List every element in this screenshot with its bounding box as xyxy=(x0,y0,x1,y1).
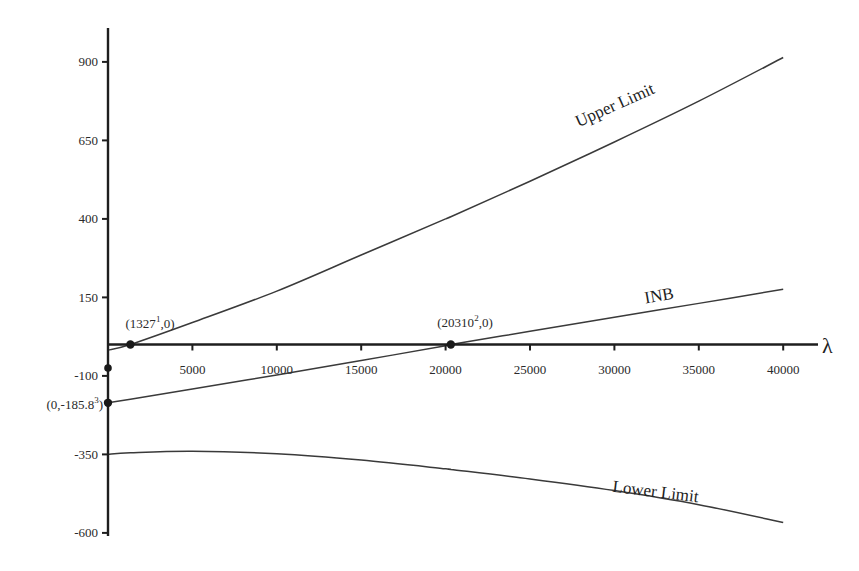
curve-labels: Upper Limit INB Lower Limit xyxy=(572,79,700,506)
x-axis-ticks: 500010000150002000025000300003500040000 xyxy=(179,345,799,377)
point-annotation-label: (13271,0) xyxy=(126,314,175,331)
y-tick-label: 650 xyxy=(79,133,99,148)
curves-layer xyxy=(108,58,783,523)
y-tick-label: 400 xyxy=(79,211,99,226)
x-tick-label: 40000 xyxy=(767,362,800,377)
y-tick-label: 150 xyxy=(79,290,99,305)
x-axis-label-lambda: λ xyxy=(822,333,833,358)
y-axis-ticks: 900650400150-100-350-600 xyxy=(74,54,108,540)
y-tick-label: -600 xyxy=(74,525,98,540)
point-annotation-label: (203102,0) xyxy=(437,313,492,330)
point-marker xyxy=(126,340,134,348)
x-tick-label: 5000 xyxy=(179,362,205,377)
upper-limit-label: Upper Limit xyxy=(572,79,657,131)
y-tick-label: -350 xyxy=(74,447,98,462)
x-tick-label: 15000 xyxy=(345,362,378,377)
point-marker xyxy=(104,399,112,407)
y-tick-label: -100 xyxy=(74,368,98,383)
lower-limit-label: Lower Limit xyxy=(612,477,700,506)
chart-canvas: λ 900650400150-100-350-600 5000100001500… xyxy=(0,0,859,571)
origin-marker xyxy=(104,364,112,372)
point-annotation-label: (0,-185.83) xyxy=(46,395,103,412)
x-tick-label: 30000 xyxy=(598,362,631,377)
x-tick-label: 10000 xyxy=(261,362,294,377)
x-tick-label: 25000 xyxy=(514,362,547,377)
y-tick-label: 900 xyxy=(79,54,99,69)
x-tick-label: 20000 xyxy=(429,362,462,377)
axes-layer: λ xyxy=(108,28,833,536)
point-marker xyxy=(447,340,455,348)
inb-label: INB xyxy=(643,284,675,308)
x-tick-label: 35000 xyxy=(683,362,716,377)
